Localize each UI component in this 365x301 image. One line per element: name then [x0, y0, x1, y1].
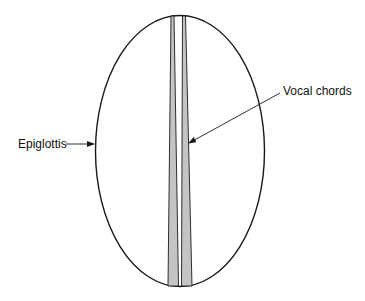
epiglottis-label: Epiglottis	[18, 137, 67, 151]
vocal-chords-arrow	[189, 93, 280, 143]
vocal-chords-label: Vocal chords	[283, 84, 352, 98]
right-vocal-chord	[182, 16, 193, 286]
larynx-outline	[96, 16, 265, 287]
larynx-diagram: Epiglottis Vocal chords	[0, 0, 365, 301]
left-vocal-chord	[168, 16, 179, 286]
